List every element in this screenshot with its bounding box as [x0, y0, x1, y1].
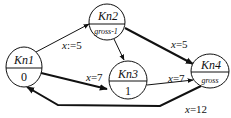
node-kn2-name: Kn2 — [97, 9, 118, 23]
node-kn4: Kn4 gross — [191, 54, 229, 88]
node-kn4-name: Kn4 — [200, 58, 221, 72]
node-kn4-value: gross — [201, 76, 218, 85]
node-kn3-name: Kn3 — [117, 67, 138, 81]
state-diagram: x:=5 x=5 x=7 x=7 x=12 Kn1 0 Kn2 gross-1 … — [0, 0, 231, 118]
node-kn2-value: gross-1 — [94, 27, 118, 36]
edge-label-kn4-kn1: x=12 — [184, 103, 207, 115]
node-kn2: Kn2 gross-1 — [89, 4, 125, 40]
node-kn3: Kn3 1 — [109, 61, 147, 99]
node-kn1: Kn1 0 — [6, 47, 42, 87]
edge-label-kn3-kn4: x=7 — [167, 72, 185, 84]
edge-label-kn1-kn2: x:=5 — [61, 39, 82, 51]
diagram-svg: x:=5 x=5 x=7 x=7 x=12 Kn1 0 Kn2 gross-1 … — [0, 0, 231, 118]
edge-label-kn2-kn4: x=5 — [170, 38, 188, 50]
node-kn3-value: 1 — [125, 84, 131, 98]
node-kn1-value: 0 — [21, 70, 27, 84]
edge-kn2-kn3 — [114, 39, 124, 60]
node-kn1-name: Kn1 — [13, 53, 34, 67]
edge-label-kn1-kn3: x=7 — [85, 71, 103, 83]
